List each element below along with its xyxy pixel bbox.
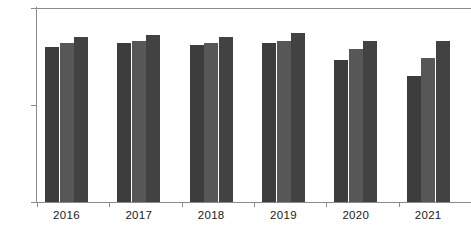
bar-2021-series3 <box>436 41 450 202</box>
bar-2017-series3 <box>146 35 160 202</box>
x-tick-mark <box>182 202 183 207</box>
y-tick-100: 100 <box>0 8 37 9</box>
y-tick-0: 0 <box>0 202 37 203</box>
x-axis-label-2016: 2016 <box>37 209 97 221</box>
y-tick-50: 50 <box>0 105 37 106</box>
x-tick-mark <box>254 202 255 207</box>
x-tick-mark <box>399 202 400 207</box>
bar-chart: 050100 201620172018201920202021 <box>0 0 471 227</box>
x-axis-label-2020: 2020 <box>326 209 386 221</box>
bar-2019-series2 <box>277 41 291 202</box>
bar-2018-series2 <box>204 43 218 202</box>
y-tick-mark <box>31 105 37 106</box>
x-tick-mark <box>109 202 110 207</box>
plot-area <box>37 8 471 202</box>
bar-2020-series2 <box>349 49 363 202</box>
bar-2020-series3 <box>363 41 377 202</box>
x-tick-mark <box>326 202 327 207</box>
x-tick-mark <box>37 202 38 207</box>
bar-2016-series2 <box>60 43 74 202</box>
x-axis-label-2019: 2019 <box>254 209 314 221</box>
bar-2021-series2 <box>421 58 435 202</box>
bar-2018-series1 <box>190 45 204 202</box>
bar-2020-series1 <box>334 60 348 202</box>
plot-top-border <box>37 8 471 9</box>
bar-2017-series1 <box>117 43 131 202</box>
y-tick-mark <box>31 8 37 9</box>
bar-2017-series2 <box>132 41 146 202</box>
x-axis-label-2018: 2018 <box>181 209 241 221</box>
bar-2016-series3 <box>74 37 88 202</box>
bar-2021-series1 <box>407 76 421 202</box>
bar-2016-series1 <box>45 47 59 202</box>
bar-2019-series1 <box>262 43 276 202</box>
x-axis-label-2017: 2017 <box>109 209 169 221</box>
bar-2019-series3 <box>291 33 305 202</box>
bar-2018-series3 <box>219 37 233 202</box>
x-axis-label-2021: 2021 <box>398 209 458 221</box>
